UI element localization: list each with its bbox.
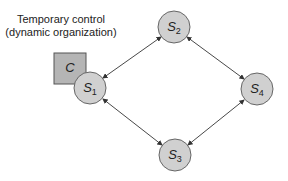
diagram-canvas: Temporary control (dynamic organization)… [0,0,288,181]
node-s3-label: S3 [159,139,191,171]
edge-s2-s4 [187,37,244,79]
edge-s3-s4 [188,100,244,145]
node-s2-label: S2 [158,11,190,43]
caption: Temporary control (dynamic organization) [0,13,122,39]
caption-line-1: Temporary control [0,13,122,26]
edge-s1-s3 [103,99,162,145]
node-s1-label: S1 [74,72,106,104]
edge-s1-s2 [103,37,161,78]
caption-line-2: (dynamic organization) [0,26,122,39]
node-s4-label: S4 [241,73,273,105]
